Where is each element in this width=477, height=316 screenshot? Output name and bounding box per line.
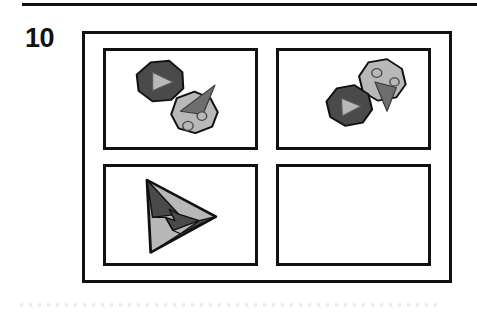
octagon-circle-2	[183, 121, 193, 130]
octagon-circle-1	[372, 69, 382, 78]
panel-bottom-left	[103, 164, 258, 266]
panel-bottom-left-figure	[106, 167, 255, 263]
scan-artifact-band	[20, 303, 440, 307]
panel-top-right-figure	[279, 51, 428, 147]
large-arrow-triangle-composite	[147, 180, 216, 252]
panel-bottom-right-figure	[279, 167, 428, 263]
dark-octagon-with-triangle	[137, 61, 184, 102]
octagon-circle-1	[197, 112, 207, 120]
dark-octagon-with-triangle	[326, 85, 372, 126]
panel-grid	[85, 34, 449, 280]
figure-number-label: 10	[25, 25, 54, 52]
figure-outer-frame	[82, 31, 452, 283]
panel-top-left	[103, 48, 258, 150]
panel-bottom-right	[276, 164, 431, 266]
panel-top-right	[276, 48, 431, 150]
panel-top-left-figure	[106, 51, 255, 147]
top-horizontal-rule	[22, 3, 477, 6]
octagon-circle-2	[390, 78, 399, 86]
